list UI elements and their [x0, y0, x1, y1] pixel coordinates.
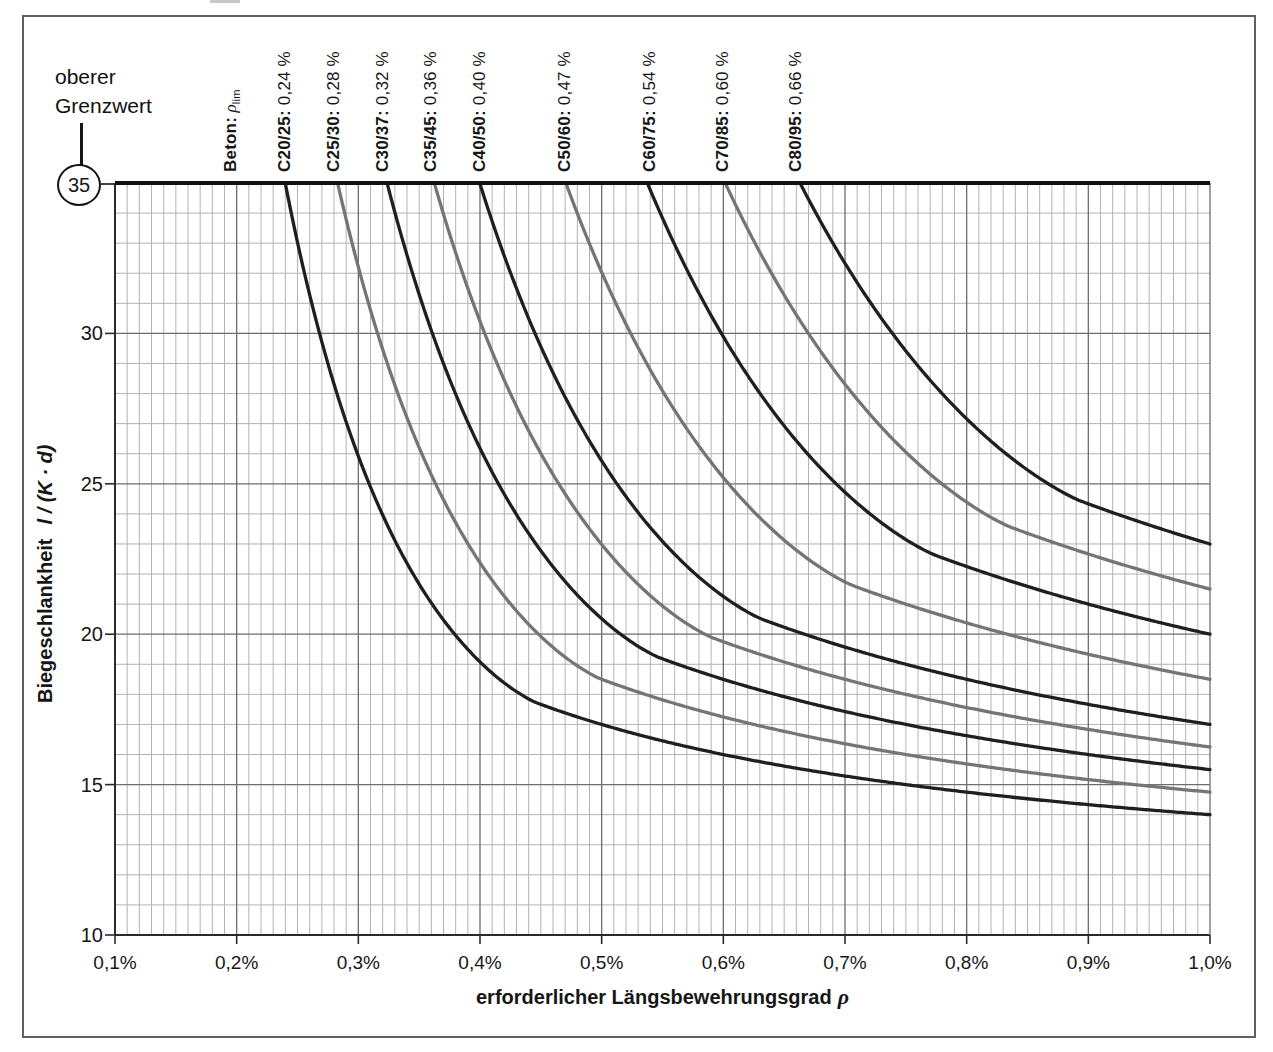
upper-limit-annotation: oberer Grenzwert [55, 62, 152, 120]
x-tick-label-05: 0,5% [562, 951, 642, 975]
series-label-C50-60: C50/60: 0,47 % [555, 51, 575, 172]
series-label-C70-85: C70/85: 0,60 % [713, 51, 733, 172]
x-tick-label-07: 0,7% [805, 951, 885, 975]
annotation-connector-line [80, 123, 83, 166]
y-axis-title: Biegeschlankheitl / (K · d) [34, 445, 57, 704]
x-tick-label-04: 0,4% [440, 951, 520, 975]
upper-limit-line1: oberer [55, 62, 152, 91]
x-tick-label-09: 0,9% [1048, 951, 1128, 975]
slenderness-chart-figure: oberer Grenzwert 35 30 25 20 15 10 0,1% … [0, 0, 1273, 1052]
x-tick-label-10: 1,0% [1170, 951, 1250, 975]
y-axis-title-text: Biegeschlankheit [34, 538, 56, 703]
rho-symbol: ρ [221, 104, 240, 117]
series-label-C35-45: C35/45: 0,36 % [421, 51, 441, 172]
y-tick-label-15: 15 [58, 773, 103, 797]
y-tick-label-10: 10 [58, 923, 103, 947]
curve-C35/45 [434, 183, 1210, 747]
series-label-C80-95: C80/95: 0,66 % [786, 51, 806, 172]
series-label-C20-25: C20/25: 0,24 % [275, 51, 295, 172]
x-tick-label-08: 0,8% [927, 951, 1007, 975]
x-axis-title-text: erforderlicher Längsbewehrungsgrad [476, 986, 832, 1008]
upper-limit-line2: Grenzwert [55, 91, 152, 120]
x-axis-title: erforderlicher Längsbewehrungsgradρ [115, 984, 1210, 1010]
series-label-C60-75: C60/75: 0,54 % [640, 51, 660, 172]
column-header-bold: Beton: [221, 117, 240, 172]
x-tick-label-01: 0,1% [75, 951, 155, 975]
series-label-C30-37: C30/37: 0,32 % [373, 51, 393, 172]
series-label-C40-50: C40/50: 0,40 % [470, 51, 490, 172]
y-axis-title-math: l / (K · d) [34, 445, 56, 525]
x-tick-label-06: 0,6% [683, 951, 763, 975]
column-header-beton-rholim: Beton: ρlim [221, 90, 241, 173]
x-tick-label-03: 0,3% [318, 951, 398, 975]
x-tick-label-02: 0,2% [197, 951, 277, 975]
x-axis-title-symbol: ρ [838, 984, 849, 1009]
y-tick-label-30: 30 [58, 321, 103, 345]
chart-canvas [0, 0, 1273, 1052]
upper-limit-value-circle: 35 [57, 164, 101, 206]
upper-limit-value: 35 [68, 174, 90, 197]
y-tick-label-25: 25 [58, 472, 103, 496]
rho-subscript: lim [230, 90, 242, 105]
series-label-C25-30: C25/30: 0,28 % [324, 51, 344, 172]
y-tick-label-20: 20 [58, 622, 103, 646]
